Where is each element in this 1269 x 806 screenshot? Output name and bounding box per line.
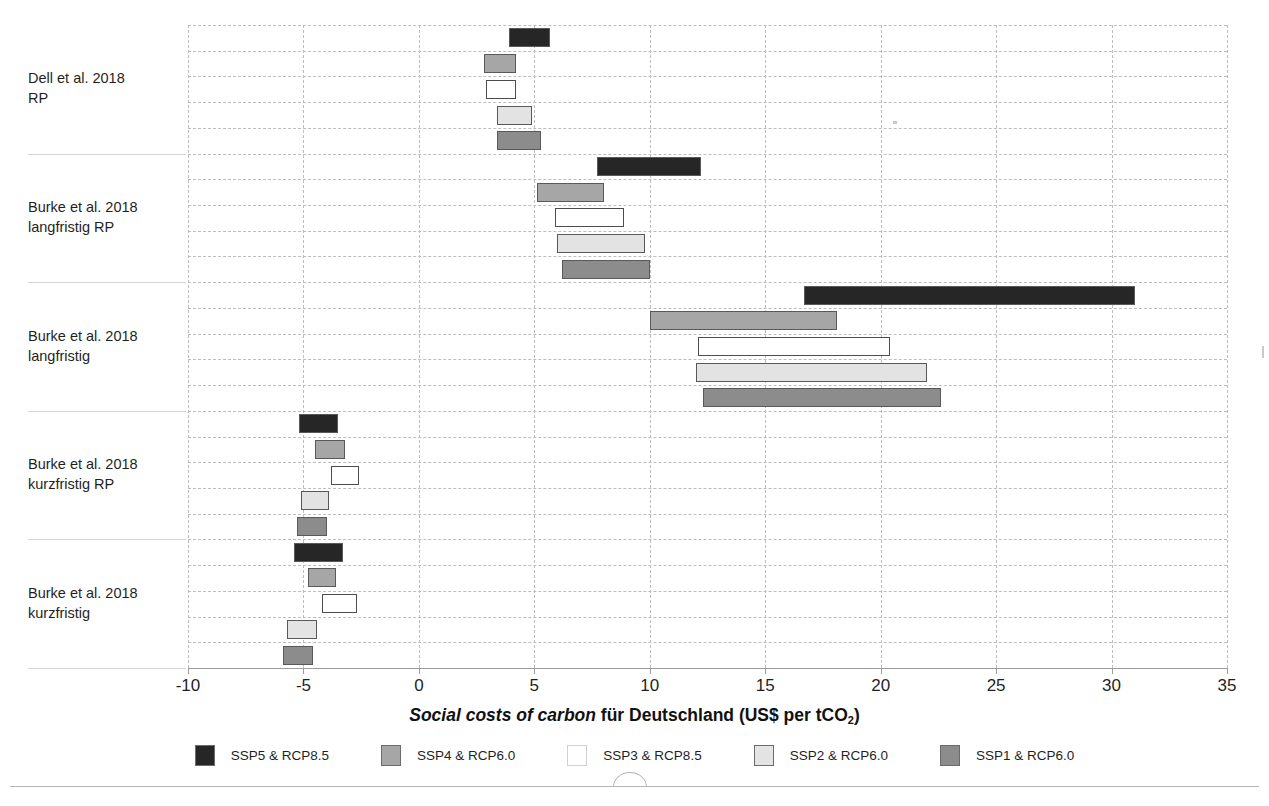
x-axis-tick-label: 10 bbox=[620, 676, 680, 696]
horizontal-gridline bbox=[188, 514, 1227, 515]
horizontal-gridline bbox=[188, 282, 1227, 283]
x-axis-tick bbox=[765, 668, 766, 674]
bar-3-cat-2 bbox=[555, 208, 624, 227]
x-axis-title-rest: für Deutschland (US$ per tCO bbox=[596, 705, 848, 725]
scan-speck-1 bbox=[893, 121, 897, 124]
x-axis-tick bbox=[996, 668, 997, 674]
x-axis-tick bbox=[650, 668, 651, 674]
horizontal-gridline bbox=[188, 617, 1227, 618]
x-axis-tick-label: 15 bbox=[735, 676, 795, 696]
horizontal-gridline bbox=[188, 179, 1227, 180]
x-axis-tick-label: 5 bbox=[504, 676, 564, 696]
horizontal-gridline bbox=[188, 359, 1227, 360]
category-separator-3 bbox=[28, 539, 186, 540]
vertical-gridline bbox=[650, 25, 651, 668]
horizontal-gridline bbox=[188, 256, 1227, 257]
x-axis-tick-label: 20 bbox=[851, 676, 911, 696]
x-axis-tick bbox=[303, 668, 304, 674]
vertical-gridline bbox=[534, 25, 535, 668]
horizontal-gridline bbox=[188, 411, 1227, 412]
x-axis-title-subscript: 2 bbox=[848, 714, 854, 726]
bar-5-cat-1 bbox=[497, 131, 541, 150]
horizontal-gridline bbox=[188, 102, 1227, 103]
vertical-gridline bbox=[188, 25, 189, 668]
horizontal-gridline bbox=[188, 308, 1227, 309]
x-axis-tick bbox=[188, 668, 189, 674]
vertical-gridline bbox=[1112, 25, 1113, 668]
x-axis-title-emphasis: Social costs of carbon bbox=[409, 705, 596, 725]
x-axis-title: Social costs of carbon für Deutschland (… bbox=[0, 705, 1269, 726]
x-axis-tick bbox=[1227, 668, 1228, 674]
legend-item-3[interactable]: SSP3 & RCP8.5 bbox=[567, 745, 701, 766]
chart-root: Dell et al. 2018 RP Burke et al. 2018 la… bbox=[0, 0, 1269, 806]
bar-3-cat-3 bbox=[698, 337, 890, 356]
x-axis-tick-label: 25 bbox=[966, 676, 1026, 696]
category-separator-1 bbox=[28, 282, 186, 283]
bar-4-cat-3 bbox=[696, 363, 927, 382]
x-axis-tick-label: 35 bbox=[1197, 676, 1257, 696]
horizontal-gridline bbox=[188, 642, 1227, 643]
legend-label: SSP5 & RCP8.5 bbox=[231, 748, 329, 763]
legend-item-4[interactable]: SSP2 & RCP6.0 bbox=[754, 745, 888, 766]
horizontal-gridline bbox=[188, 334, 1227, 335]
legend-label: SSP4 & RCP6.0 bbox=[417, 748, 515, 763]
legend-label: SSP2 & RCP6.0 bbox=[790, 748, 888, 763]
x-axis-tick-label: 0 bbox=[389, 676, 449, 696]
horizontal-gridline bbox=[188, 76, 1227, 77]
x-axis-tick bbox=[881, 668, 882, 674]
category-separator-2 bbox=[28, 411, 186, 412]
horizontal-gridline bbox=[188, 231, 1227, 232]
x-axis-tick-label: -5 bbox=[273, 676, 333, 696]
bar-3-cat-4 bbox=[331, 466, 359, 485]
x-axis-line bbox=[188, 668, 1227, 669]
legend-item-5[interactable]: SSP1 & RCP6.0 bbox=[940, 745, 1074, 766]
page-bottom-notch bbox=[613, 772, 647, 787]
legend-item-2[interactable]: SSP4 & RCP6.0 bbox=[381, 745, 515, 766]
bar-5-cat-5 bbox=[283, 646, 313, 665]
category-label-4: Burke et al. 2018 kurzfristig bbox=[28, 583, 186, 623]
horizontal-gridline bbox=[188, 437, 1227, 438]
vertical-gridline bbox=[419, 25, 420, 668]
legend-swatch-icon bbox=[940, 745, 960, 766]
horizontal-gridline bbox=[188, 488, 1227, 489]
bar-1-cat-4 bbox=[299, 414, 338, 433]
bar-5-cat-3 bbox=[703, 388, 941, 407]
horizontal-gridline bbox=[188, 591, 1227, 592]
bar-1-cat-3 bbox=[804, 286, 1134, 305]
scan-speck-2 bbox=[1262, 346, 1264, 358]
horizontal-gridline bbox=[188, 565, 1227, 566]
bar-5-cat-4 bbox=[297, 517, 327, 536]
bar-2-cat-5 bbox=[308, 568, 336, 587]
vertical-gridline bbox=[996, 25, 997, 668]
vertical-gridline bbox=[1227, 25, 1228, 668]
category-label-3: Burke et al. 2018 kurzfristig RP bbox=[28, 454, 186, 494]
legend-swatch-icon bbox=[381, 745, 401, 766]
x-axis-tick-label: 30 bbox=[1082, 676, 1142, 696]
bar-2-cat-1 bbox=[484, 54, 516, 73]
horizontal-gridline bbox=[188, 539, 1227, 540]
bar-4-cat-5 bbox=[287, 620, 317, 639]
legend-label: SSP3 & RCP8.5 bbox=[603, 748, 701, 763]
legend-label: SSP1 & RCP6.0 bbox=[976, 748, 1074, 763]
category-label-2: Burke et al. 2018 langfristig bbox=[28, 326, 186, 366]
bar-2-cat-4 bbox=[315, 440, 345, 459]
horizontal-gridline bbox=[188, 128, 1227, 129]
horizontal-gridline bbox=[188, 51, 1227, 52]
bar-3-cat-5 bbox=[322, 594, 357, 613]
horizontal-gridline bbox=[188, 462, 1227, 463]
category-axis-labels: Dell et al. 2018 RP Burke et al. 2018 la… bbox=[0, 25, 186, 668]
bar-5-cat-2 bbox=[562, 260, 650, 279]
bar-1-cat-1 bbox=[509, 28, 551, 47]
vertical-gridline bbox=[303, 25, 304, 668]
horizontal-gridline bbox=[188, 25, 1227, 26]
horizontal-gridline bbox=[188, 154, 1227, 155]
bar-2-cat-2 bbox=[537, 183, 604, 202]
bar-4-cat-4 bbox=[301, 491, 329, 510]
legend-swatch-icon bbox=[195, 745, 215, 766]
category-label-1: Burke et al. 2018 langfristig RP bbox=[28, 197, 186, 237]
legend-item-1[interactable]: SSP5 & RCP8.5 bbox=[195, 745, 329, 766]
category-separator-4 bbox=[28, 668, 186, 669]
legend-swatch-icon bbox=[567, 745, 587, 766]
horizontal-gridline bbox=[188, 385, 1227, 386]
category-label-0: Dell et al. 2018 RP bbox=[28, 68, 186, 108]
